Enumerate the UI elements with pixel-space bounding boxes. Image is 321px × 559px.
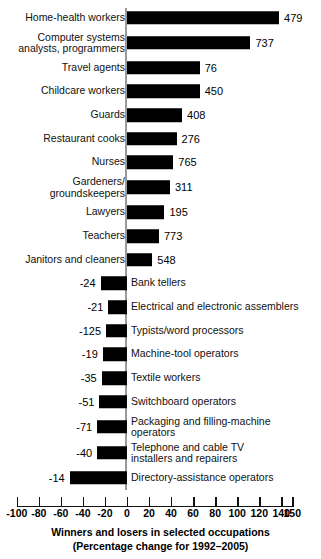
x-axis-tick (171, 497, 172, 507)
x-axis-tick-label: 20 (143, 507, 155, 519)
x-axis-tick-label: 150 (284, 507, 302, 519)
x-axis-tick (61, 497, 62, 507)
x-axis-tick (237, 497, 238, 507)
bar-category-label: Switchboard operators (131, 396, 236, 408)
bar (99, 395, 127, 409)
x-axis-tick (259, 497, 260, 507)
bar-row: Travel agents76 (0, 56, 321, 80)
bar (127, 229, 159, 243)
bar (127, 132, 177, 146)
bar-category-label: Computer systems analysts, programmers (18, 31, 125, 54)
bar-value-label: -35 (81, 373, 97, 384)
bar (106, 324, 127, 338)
caption-title: Winners and losers in selected occupatio… (51, 526, 270, 538)
bar-value-label: -125 (79, 325, 101, 336)
bar-category-label: Home-health workers (25, 12, 125, 24)
bar-value-label: 408 (187, 110, 205, 121)
bar-rows: Home-health workers479Computer systems a… (0, 6, 321, 490)
bar-row: Bank tellers-24 (0, 272, 321, 296)
x-axis-tick (39, 497, 40, 507)
x-axis-tick (292, 497, 293, 507)
bar (127, 36, 250, 50)
bar-chart: Home-health workers479Computer systems a… (0, 0, 321, 559)
bar (70, 471, 127, 485)
bar-value-label: 765 (178, 157, 196, 168)
bar (103, 348, 127, 362)
bar (97, 420, 127, 434)
bar (127, 206, 164, 220)
bar (97, 446, 127, 460)
caption-subtitle: (Percentage change for 1992–2005) (0, 540, 321, 554)
bar-category-label: Packaging and filling-machine operators (131, 415, 271, 438)
x-axis-tick (193, 497, 194, 507)
bar-value-label: 479 (284, 12, 302, 23)
x-axis-tick-label: 120 (250, 507, 268, 519)
bar (127, 156, 173, 170)
bar-category-label: Gardeners/ groundskeepers (50, 176, 125, 199)
x-axis-tick-label: -40 (75, 507, 90, 519)
bar-value-label: 276 (182, 133, 200, 144)
bar-row: Gardeners/ groundskeepers311 (0, 174, 321, 200)
bar-value-label: -19 (82, 349, 98, 360)
bar (101, 277, 127, 291)
bar-value-label: 737 (255, 37, 273, 48)
x-axis-tick-labels: -100-80-60-40-20020406080100120140150 (0, 507, 321, 521)
bar-category-label: Machine-tool operators (131, 349, 238, 361)
bar-row: Lawyers195 (0, 201, 321, 225)
bar (127, 11, 279, 25)
bar-category-label: Janitors and cleaners (25, 254, 125, 266)
bar-value-label: -40 (76, 447, 92, 458)
bar (102, 371, 127, 385)
bar-row: Machine-tool operators-19 (0, 343, 321, 367)
bar-category-label: Typists/word processors (131, 325, 244, 337)
bar-category-label: Directory-assistance operators (131, 472, 273, 484)
bar-category-label: Electrical and electronic assemblers (131, 301, 299, 313)
bar-value-label: 548 (157, 254, 175, 265)
x-axis-tick-label: 40 (165, 507, 177, 519)
bar-category-label: Guards (91, 109, 125, 121)
x-axis-tick-label: 80 (209, 507, 221, 519)
x-axis-tick-label: -80 (31, 507, 46, 519)
bar (127, 85, 200, 99)
x-axis-tick-label: 60 (187, 507, 199, 519)
bar-value-label: 311 (175, 182, 193, 193)
x-axis-tick-label: -100 (6, 507, 27, 519)
bar-row: Computer systems analysts, programmers73… (0, 30, 321, 56)
bar (108, 300, 127, 314)
bar-row: Typists/word processors-125 (0, 319, 321, 343)
bar-row: Restaurant cooks276 (0, 127, 321, 151)
x-axis-tick-label: 100 (228, 507, 246, 519)
bar-row: Textile workers-35 (0, 366, 321, 390)
bar-category-label: Travel agents (62, 62, 125, 74)
bar-row: Home-health workers479 (0, 6, 321, 30)
bar-row: Janitors and cleaners548 (0, 248, 321, 272)
x-axis-tick-label: -60 (53, 507, 68, 519)
bar (127, 253, 152, 267)
bar-row: Teachers773 (0, 224, 321, 248)
bar-value-label: -14 (49, 472, 65, 483)
bar-category-label: Textile workers (131, 372, 200, 384)
bar-row: Packaging and filling-machine operators-… (0, 414, 321, 440)
bar-row: Electrical and electronic assemblers-21 (0, 295, 321, 319)
bar-category-label: Teachers (82, 230, 125, 242)
bar-category-label: Nurses (92, 157, 125, 169)
chart-caption: Winners and losers in selected occupatio… (0, 526, 321, 553)
bar-value-label: 195 (169, 207, 187, 218)
x-axis-tick (281, 497, 282, 507)
bar (127, 61, 200, 75)
x-axis-tick (215, 497, 216, 507)
x-axis-tick-label: 0 (124, 507, 130, 519)
bar-value-label: -71 (76, 421, 92, 432)
bar (127, 108, 182, 122)
bar-category-label: Lawyers (86, 207, 125, 219)
x-axis-tick (127, 497, 128, 507)
bar-value-label: -21 (87, 302, 103, 313)
x-axis-tick (83, 497, 84, 507)
x-axis-tick (149, 497, 150, 507)
bar-value-label: -24 (80, 278, 96, 289)
bar-row: Childcare workers450 (0, 80, 321, 104)
bar-value-label: 450 (205, 86, 223, 97)
bar-value-label: -51 (79, 396, 95, 407)
bar (127, 181, 170, 195)
bar-row: Directory-assistance operators-14 (0, 466, 321, 490)
